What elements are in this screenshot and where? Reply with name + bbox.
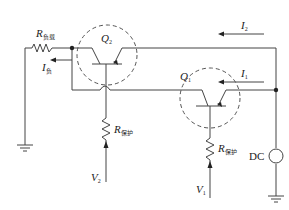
i-load-label: I负 <box>42 62 52 74</box>
v2-label: V2 <box>91 172 101 184</box>
r-protect-2-label: R保护 <box>114 124 133 136</box>
v1-label: V1 <box>196 184 206 196</box>
i2-label: I2 <box>241 20 248 32</box>
q1-label: Q1 <box>180 71 191 83</box>
q2-label: Q2 <box>101 33 112 45</box>
r-protect-1-label: R保护 <box>218 143 237 155</box>
i1-label: I1 <box>241 68 248 80</box>
r-load-label: R负载 <box>36 28 55 40</box>
dc-source-label: DC <box>249 151 264 162</box>
load-resistor <box>25 44 72 52</box>
